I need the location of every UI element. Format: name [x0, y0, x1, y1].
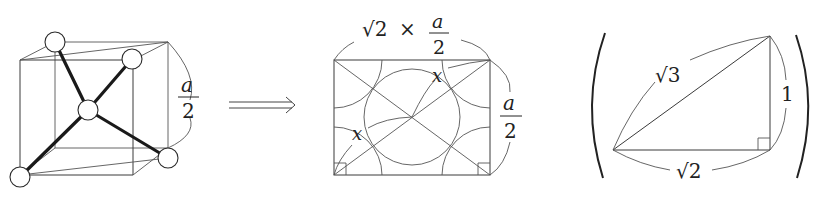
- label-a: a: [432, 10, 443, 32]
- label-sqrt3: √3: [655, 63, 680, 87]
- label-a: a: [503, 91, 515, 115]
- hypotenuse-arc: [690, 36, 770, 60]
- dimension-arc: [334, 42, 354, 60]
- implies-arrow: [229, 97, 295, 113]
- cross-section-diagram: x x √2 × a 2 a 2: [286, 10, 538, 198]
- right-triangle: [613, 36, 770, 150]
- bond: [88, 110, 168, 158]
- base-arc: [613, 150, 670, 170]
- label-sqrt2: √2: [676, 159, 701, 183]
- base-arc: [712, 150, 770, 170]
- figure-canvas: a 2 x x: [0, 0, 825, 198]
- atom-bottom-left: [10, 167, 30, 187]
- side-arc: [770, 108, 786, 150]
- right-angle-mark: [758, 138, 770, 150]
- dimension-arc: [490, 142, 510, 175]
- bond: [20, 110, 88, 177]
- label-times: ×: [399, 17, 416, 41]
- atom-top-right: [122, 49, 142, 69]
- label-2: 2: [504, 119, 517, 143]
- x-arc: [334, 145, 352, 175]
- label-one: 1: [781, 82, 794, 106]
- hypotenuse-arc: [613, 82, 655, 150]
- atom-center: [78, 100, 98, 120]
- side-arc: [770, 36, 786, 80]
- face-diagonal: [20, 42, 168, 60]
- x-arc: [448, 60, 490, 68]
- label-x-lower: x: [352, 123, 362, 144]
- cube-back-face: [55, 42, 168, 148]
- ratio-triangle-diagram: √3 1 √2: [592, 33, 808, 183]
- label-x-upper: x: [432, 65, 442, 86]
- label-2: 2: [182, 99, 195, 123]
- face-diagonal: [20, 158, 168, 175]
- dimension-arc: [461, 40, 490, 60]
- right-parenthesis: [796, 35, 808, 178]
- left-parenthesis: [592, 33, 605, 178]
- atom-bottom-right: [158, 148, 178, 168]
- dimension-arc: [490, 60, 510, 92]
- atom-top-left: [45, 32, 65, 52]
- label-a: a: [181, 73, 193, 97]
- label-sqrt2: √2: [362, 17, 387, 41]
- label-2: 2: [433, 36, 445, 58]
- cube-diagram: a 2: [10, 32, 199, 187]
